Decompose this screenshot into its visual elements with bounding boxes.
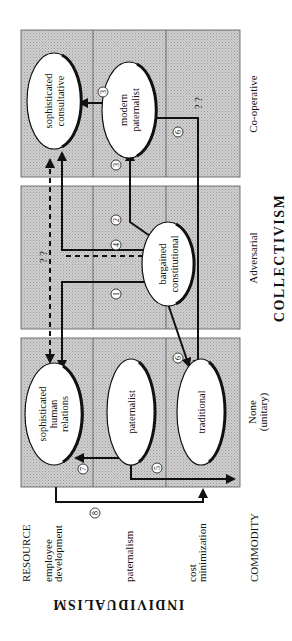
commodity-label: COMMODITY xyxy=(248,513,260,582)
svg-text:modern: modern xyxy=(118,93,129,126)
number-1: 1 xyxy=(111,289,121,299)
column-label-cooperative: Co-operative xyxy=(247,75,259,133)
svg-text:7: 7 xyxy=(79,467,88,471)
resource-label: RESOURCE xyxy=(20,524,32,582)
node-paternalist: paternalist xyxy=(107,359,155,465)
svg-text:8: 8 xyxy=(91,511,100,515)
number-6a: 6 xyxy=(173,127,183,137)
svg-text:relations: relations xyxy=(59,396,70,432)
column-label-unitary: None (unitary) xyxy=(246,392,270,431)
svg-text:? ?: ? ? xyxy=(193,97,204,109)
number-7: 7 xyxy=(78,464,88,474)
svg-text:6: 6 xyxy=(174,130,183,134)
number-4: 4 xyxy=(111,240,121,250)
svg-text:sophisticated: sophisticated xyxy=(37,386,48,442)
individualism-title: INDIVIDUALISM xyxy=(52,597,184,612)
svg-text:development: development xyxy=(52,525,64,582)
row-label-employee-development: employee development xyxy=(42,525,64,582)
svg-text:? ?: ? ? xyxy=(38,251,49,263)
svg-text:bargained: bargained xyxy=(157,243,168,285)
svg-text:traditional: traditional xyxy=(196,390,207,433)
svg-text:sophisticated: sophisticated xyxy=(43,73,54,129)
svg-text:paternalist: paternalist xyxy=(130,88,141,132)
svg-text:6: 6 xyxy=(174,356,183,360)
column-labels: Co-operative Adversarial None (unitary) … xyxy=(246,75,287,431)
number-3a: 3 xyxy=(98,87,108,97)
svg-text:5: 5 xyxy=(153,466,162,470)
number-6b: 6 xyxy=(173,353,183,363)
node-sophisticated-human-relations: sophisticated human relations xyxy=(25,363,83,465)
node-traditional: traditional xyxy=(177,359,225,465)
node-sophisticated-consultative: sophisticated consultative xyxy=(27,53,81,149)
number-3b: 3 xyxy=(111,160,121,170)
number-2: 2 xyxy=(111,215,121,225)
svg-text:human: human xyxy=(48,399,59,428)
column-label-adversarial: Adversarial xyxy=(247,232,259,283)
row-label-paternalism: paternalism xyxy=(123,530,135,582)
svg-text:(unitary): (unitary) xyxy=(257,392,270,431)
svg-text:3: 3 xyxy=(99,90,108,94)
svg-text:2: 2 xyxy=(112,218,121,222)
number-5: 5 xyxy=(152,463,162,473)
svg-text:constitutional: constitutional xyxy=(169,235,180,292)
arrow-8 xyxy=(56,487,203,502)
svg-text:3: 3 xyxy=(112,163,121,167)
styles-of-management-diagram: sophisticated consultative modern patern… xyxy=(0,0,292,641)
svg-text:4: 4 xyxy=(112,243,121,247)
number-8: 8 xyxy=(90,508,100,518)
collectivism-title: COLLECTIVISM xyxy=(272,194,287,322)
svg-text:paternalist: paternalist xyxy=(126,390,137,434)
row-labels: RESOURCE employee development paternalis… xyxy=(20,513,260,612)
svg-text:1: 1 xyxy=(112,292,121,296)
svg-text:consultative: consultative xyxy=(55,75,66,126)
node-bargained-constitutional: bargained constitutional xyxy=(142,222,194,306)
row-label-cost-minimization: cost minimization xyxy=(186,523,208,582)
svg-text:minimization: minimization xyxy=(196,523,208,582)
node-modern-paternalist: modern paternalist xyxy=(102,62,156,158)
